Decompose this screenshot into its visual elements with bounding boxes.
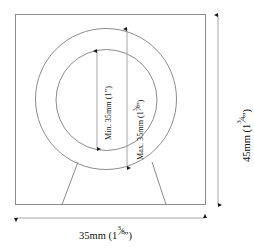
overall-width-label: 35mm (13⁄8”) bbox=[0, 228, 211, 241]
overall-height-text: 45mm (1 bbox=[241, 124, 252, 162]
min-diameter-text: Min. 35mm (1 bbox=[104, 92, 113, 140]
max-diameter-text: Max. 35mm (1 bbox=[136, 111, 145, 160]
overall-height-suffix: ) bbox=[241, 109, 252, 113]
min-diameter-suffix: ) bbox=[104, 86, 113, 89]
overall-width-denominator: 8 bbox=[121, 229, 124, 236]
max-diameter-denominator: 8 bbox=[136, 105, 141, 108]
overall-width-text: 35mm (1 bbox=[79, 230, 117, 241]
stand-right-line bbox=[152, 162, 166, 205]
overall-width-fraction: 3⁄8 bbox=[117, 228, 124, 239]
min-diameter-inch-mark: ” bbox=[104, 89, 113, 93]
max-diameter-label: Max. 35mm (13⁄8”) bbox=[135, 100, 145, 160]
stand-left-line bbox=[62, 162, 78, 205]
overall-width-suffix: ) bbox=[128, 230, 132, 241]
drawing-canvas bbox=[0, 0, 254, 248]
overall-height-denominator: 4 bbox=[240, 116, 247, 119]
overall-height-fraction: 3⁄4 bbox=[239, 117, 250, 124]
overall-height-label: 45mm (13⁄4”) bbox=[239, 109, 252, 162]
min-diameter-label: Min. 35mm (1”) bbox=[105, 86, 113, 140]
max-diameter-suffix: ) bbox=[136, 100, 145, 103]
max-diameter-fraction: 3⁄8 bbox=[135, 106, 143, 111]
dimension-drawing: Min. 35mm (1”) Max. 35mm (13⁄8”) 45mm (1… bbox=[0, 0, 254, 248]
